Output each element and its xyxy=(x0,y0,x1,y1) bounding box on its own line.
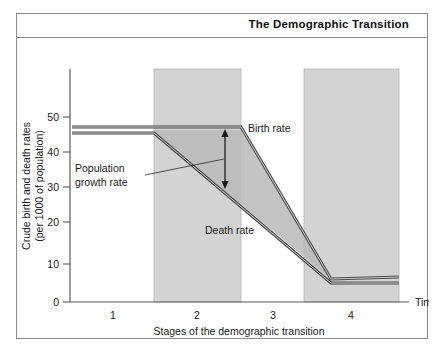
x-axis-end-label: Time xyxy=(415,296,429,308)
y-axis-title-line1: Crude birth and death rates xyxy=(20,122,32,250)
population-growth-rate-label-line2: growth rate xyxy=(75,176,128,188)
y-axis-title-line2: (per 1000 of population) xyxy=(33,130,45,242)
y-tick-label-20: 20 xyxy=(47,216,59,228)
death-rate-label: Death rate xyxy=(205,224,254,236)
figure-title-bar: The Demographic Transition xyxy=(17,14,427,38)
population-growth-rate-label-line1: Population xyxy=(75,162,125,174)
x-tick-label-stage-1: 1 xyxy=(110,309,116,321)
y-tick-label-40: 40 xyxy=(47,146,59,158)
chart-plot-area: 0 10 20 30 40 50 1 2 3 4 Time Stages of … xyxy=(17,38,429,339)
x-tick-label-stage-2: 2 xyxy=(194,309,200,321)
page-title: The Demographic Transition xyxy=(249,18,409,30)
figure-frame: The Demographic Transition 0 10 20 30 40 xyxy=(16,13,428,339)
x-tick-label-stage-3: 3 xyxy=(270,309,276,321)
demographic-transition-chart: 0 10 20 30 40 50 1 2 3 4 Time Stages of … xyxy=(17,38,429,339)
y-tick-label-0: 0 xyxy=(53,296,59,308)
y-tick-label-30: 30 xyxy=(47,181,59,193)
birth-rate-label: Birth rate xyxy=(248,122,291,134)
x-axis-title: Stages of the demographic transition xyxy=(153,325,324,337)
x-tick-label-stage-4: 4 xyxy=(348,309,354,321)
y-tick-label-50: 50 xyxy=(47,111,59,123)
y-tick-label-10: 10 xyxy=(47,258,59,270)
